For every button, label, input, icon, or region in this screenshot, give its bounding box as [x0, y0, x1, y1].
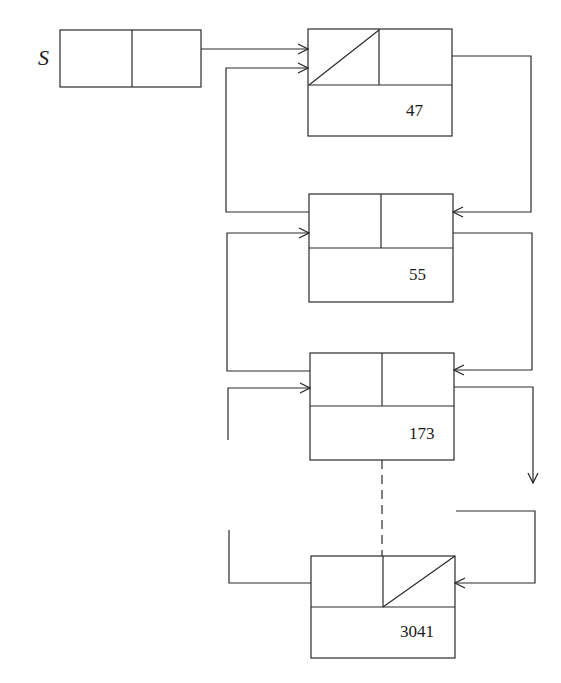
node-value-55: 55: [409, 265, 426, 285]
arrow-node3-next-continuation: [454, 387, 533, 483]
node-value-173: 173: [409, 424, 435, 444]
arrow-node2-next-to-node3: [453, 233, 532, 370]
node-value-3041: 3041: [400, 622, 434, 642]
arrow-continuation-to-node3: [228, 388, 310, 440]
line-node4-back-continuation: [229, 530, 311, 583]
list-node-55: [309, 194, 453, 302]
node-value-47: 47: [406, 101, 423, 121]
arrow-node1-next-to-node2: [452, 56, 531, 212]
list-node-3041: [311, 556, 455, 658]
head-pointer-node: [60, 30, 201, 87]
arrow-continuation-to-node4: [455, 511, 535, 583]
doubly-linked-list-diagram: [0, 0, 561, 683]
arrow-node2-back-to-node1: [226, 68, 309, 212]
arrow-node3-back-to-node2: [227, 233, 310, 371]
head-pointer-label: S: [38, 45, 49, 71]
list-node-47: [308, 29, 452, 136]
